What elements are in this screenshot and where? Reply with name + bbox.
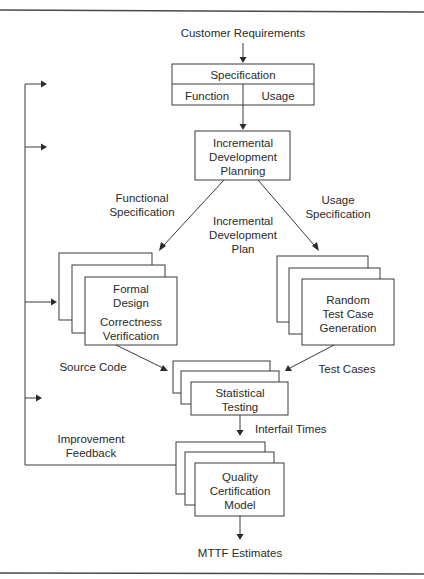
- functional-spec-label-2: Specification: [109, 206, 174, 218]
- feedback-label-2: Feedback: [66, 447, 117, 459]
- correctness-line-1: Correctness: [100, 316, 162, 328]
- correctness-line-2: Verification: [103, 330, 159, 342]
- arrow-requirements-to-spec: [240, 43, 247, 63]
- usage-spec-label-1: Usage: [321, 194, 354, 206]
- test-generation-stack: Random Test Case Generation: [277, 256, 394, 345]
- testing-line-1: Statistical: [215, 387, 264, 399]
- certification-line-2: Certification: [210, 485, 271, 497]
- planning-line-3: Planning: [221, 165, 266, 177]
- formal-design-line-2: Design: [113, 297, 149, 309]
- specification-box: Specification Function Usage: [172, 64, 314, 105]
- planning-line-2: Development: [209, 151, 278, 163]
- bottom-rule: [0, 573, 424, 574]
- formal-design-stack: Formal Design Correctness Verification: [59, 253, 177, 345]
- testgen-line-2: Test Case: [322, 308, 373, 320]
- mttf-estimates-label: MTTF Estimates: [198, 547, 283, 559]
- statistical-testing-stack: Statistical Testing: [173, 361, 288, 415]
- arrow-testing-to-certification: [237, 415, 244, 436]
- test-cases-label: Test Cases: [319, 363, 376, 375]
- certification-stack: Quality Certification Model: [176, 442, 284, 516]
- customer-requirements-label: Customer Requirements: [181, 27, 306, 39]
- function-cell: Function: [185, 90, 229, 102]
- arrow-spec-to-planning: [240, 105, 247, 130]
- certification-line-1: Quality: [222, 471, 258, 483]
- increment-plan-label-3: Plan: [231, 243, 254, 255]
- increment-plan-label-1: Incremental: [213, 215, 273, 227]
- testgen-line-3: Generation: [320, 322, 377, 334]
- source-code-label: Source Code: [59, 361, 126, 373]
- arrow-certification-to-output: [237, 516, 244, 540]
- specification-title: Specification: [210, 69, 275, 81]
- increment-plan-label-2: Development: [209, 229, 278, 241]
- usage-spec-label-2: Specification: [305, 208, 370, 220]
- planning-line-1: Incremental: [213, 137, 273, 149]
- feedback-label-1: Improvement: [57, 433, 125, 445]
- process-diagram: Customer Requirements Specification Func…: [0, 0, 424, 579]
- certification-line-3: Model: [224, 499, 255, 511]
- testing-line-2: Testing: [222, 401, 258, 413]
- functional-spec-label-1: Functional: [115, 192, 168, 204]
- formal-design-line-1: Formal: [113, 283, 149, 295]
- usage-cell: Usage: [261, 90, 294, 102]
- interfail-times-label: Interfail Times: [255, 423, 327, 435]
- top-rule: [0, 10, 424, 12]
- planning-box: Incremental Development Planning: [195, 131, 290, 180]
- testgen-line-1: Random: [326, 294, 369, 306]
